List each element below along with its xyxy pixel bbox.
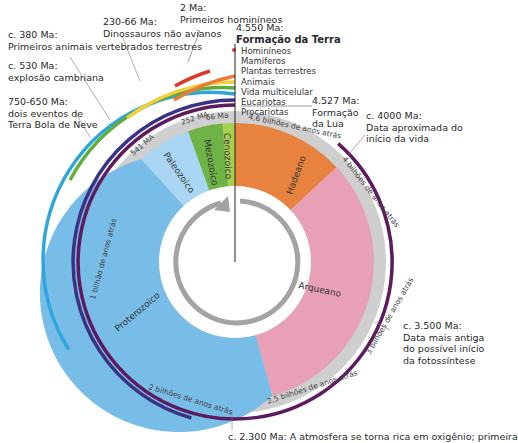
annotation-moon: 4.527 Ma: Formação da Lua [312, 95, 359, 130]
legend-item-mamiferos: Mamíferos [241, 56, 316, 66]
annotation-photosynthesis: c. 3.500 Ma: Data mais antiga do possíve… [403, 320, 484, 366]
legend-item-multicelular: Vida multicelular [241, 87, 316, 97]
label-cenozoico: Cenozoico [222, 133, 234, 180]
annotation-cambrian: c. 530 Ma: explosão cambriana [8, 60, 104, 83]
legend-item-procariotas: Procariotas [241, 107, 316, 117]
legend-item-animais: Animais [241, 77, 316, 87]
legend-item-hominineos: Hominíneos [241, 46, 316, 56]
annotation-earth-formation: 4.550 Ma: Formação da Terra [236, 22, 341, 45]
annotation-oxygen: c. 2.300 Ma: A atmosfera se torna rica e… [228, 431, 518, 443]
life-legend: Hominíneos Mamíferos Plantas terrestres … [241, 46, 316, 117]
legend-item-eucariotas: Eucariotas [241, 97, 316, 107]
legend-item-plantas: Plantas terrestres [241, 66, 316, 76]
annotation-vertebrates: c. 380 Ma: Primeiros animais vertebrados… [8, 29, 202, 52]
annotation-life-start: c. 4000 Ma: Data aproximada do início da… [366, 110, 463, 145]
annotation-snowball: 750-650 Ma: dois eventos de Terra Bola d… [8, 96, 98, 131]
